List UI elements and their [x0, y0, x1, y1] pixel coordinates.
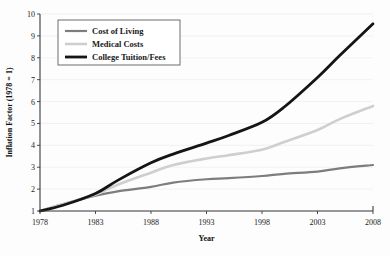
- legend-label-1: Medical Costs: [92, 39, 144, 49]
- y-tick-label: 9: [31, 32, 35, 41]
- x-tick-label: 1993: [199, 218, 215, 227]
- x-tick-label: 1988: [143, 218, 159, 227]
- legend-label-0: Cost of Living: [92, 26, 144, 36]
- y-tick-label: 6: [31, 98, 35, 107]
- x-axis-title: Year: [199, 234, 215, 243]
- chart-legend: Cost of LivingMedical CostsCollege Tuiti…: [58, 20, 180, 65]
- legend-label-2: College Tuition/Fees: [92, 52, 166, 62]
- y-tick-label: 2: [31, 185, 35, 194]
- x-tick-label: 1983: [88, 218, 104, 227]
- y-tick-label: 8: [31, 54, 35, 63]
- y-tick-label: 1: [31, 207, 35, 216]
- y-tick-labels: 12345678910: [27, 10, 40, 216]
- x-tick-labels: 1978198319881993199820032008: [32, 211, 381, 227]
- y-tick-label: 3: [31, 163, 35, 172]
- x-tick-label: 1978: [32, 218, 48, 227]
- x-tick-label: 2008: [365, 218, 381, 227]
- series-line-0: [40, 165, 373, 211]
- inflation-factor-line-chart: 12345678910 1978198319881993199820032008…: [0, 0, 390, 256]
- axis-titles: Inflation Factor (1978 = 1)Year: [5, 67, 215, 243]
- chart-plot-area: 12345678910 1978198319881993199820032008…: [0, 0, 390, 256]
- x-tick-label: 1998: [254, 218, 270, 227]
- y-axis-title: Inflation Factor (1978 = 1): [5, 67, 14, 158]
- y-tick-label: 7: [31, 76, 35, 85]
- y-tick-label: 5: [31, 119, 35, 128]
- x-tick-label: 2003: [310, 218, 326, 227]
- y-tick-label: 4: [31, 141, 35, 150]
- y-tick-label: 10: [27, 10, 35, 19]
